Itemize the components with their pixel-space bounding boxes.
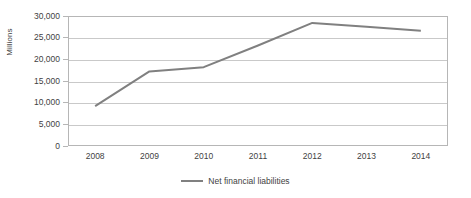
y-axis-tick-label: 10,000 <box>12 98 60 107</box>
y-axis-tick-mark <box>63 37 68 38</box>
y-axis-tick-label: 5,000 <box>12 120 60 129</box>
x-axis-tick-label: 2013 <box>339 150 395 162</box>
x-axis-tick-label: 2010 <box>176 150 232 162</box>
y-axis-tick-label: 30,000 <box>12 12 60 21</box>
y-axis-tick-label: 0 <box>12 142 60 151</box>
line-chart: Millions 05,00010,00015,00020,00025,0003… <box>0 0 471 198</box>
x-axis-tick-label: 2014 <box>393 150 449 162</box>
chart-legend: Net financial liabilities <box>0 174 471 188</box>
y-axis-tick-label: 25,000 <box>12 33 60 42</box>
y-axis-tick-label: 15,000 <box>12 77 60 86</box>
y-axis-tick-mark <box>63 59 68 60</box>
y-axis-tick-mark <box>63 16 68 17</box>
y-axis-tick-labels: 05,00010,00015,00020,00025,00030,000 <box>12 16 64 146</box>
y-axis-tick-mark <box>63 102 68 103</box>
legend-label-net-financial-liabilities: Net financial liabilities <box>208 175 289 187</box>
x-axis-tick-label: 2011 <box>230 150 286 162</box>
y-axis-tick-mark <box>63 81 68 82</box>
legend-line-swatch <box>181 180 203 182</box>
y-axis-tick-mark <box>63 124 68 125</box>
x-axis-tick-label: 2009 <box>121 150 177 162</box>
y-axis-tick-mark <box>63 146 68 147</box>
x-axis-tick-labels: 2008200920102011201220132014 <box>68 150 448 164</box>
y-axis-tick-label: 20,000 <box>12 55 60 64</box>
x-axis-tick-label: 2012 <box>284 150 340 162</box>
series-line-net-financial-liabilities <box>95 23 421 106</box>
x-axis-tick-label: 2008 <box>67 150 123 162</box>
series-layer <box>68 16 448 146</box>
